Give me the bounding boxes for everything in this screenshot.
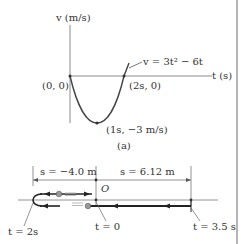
left-dimension-label: s = −4.0 m [40,167,97,177]
root-point [123,75,126,78]
time-left-label: t = 2s [8,227,38,237]
figure-caption: (a) [117,141,131,151]
min-point [95,121,98,124]
right-dimension-label: s = 6.12 m [120,167,175,177]
equation-leader [129,62,142,68]
origin-label: O [101,184,109,194]
time-origin-label: t = 0 [95,222,120,232]
time-right-label: t = 3.5 s [193,222,236,232]
leader-t-left [24,203,33,226]
origin-marker [95,179,98,182]
arrow-left-icon [44,192,50,197]
origin-point-label: (0, 0) [42,81,69,91]
equation-label: v = 3t² − 6t [143,57,203,67]
arrow-right-icon [112,204,118,209]
arrow-right-icon [164,204,170,209]
arrow-left-icon [84,192,90,197]
velocity-curve [70,63,129,123]
min-point-label: (1s, −3 m/s) [106,125,168,135]
vt-graph [69,25,213,125]
dim-arrowhead-right [186,178,191,182]
root-point-label: (2s, 0) [129,81,161,91]
x-axis-label: t (s) [212,71,232,81]
origin-axis-point [95,199,98,202]
leader-t-right [191,208,200,221]
particle-lower [72,203,91,209]
end-axis-point [190,199,193,202]
y-axis-label: v (m/s) [56,13,91,23]
leader-t-origin [96,202,106,221]
origin-point [69,75,72,78]
arrow-left-icon [42,204,48,209]
dim-arrowhead-left [33,178,38,182]
figure-canvas [0,0,244,244]
